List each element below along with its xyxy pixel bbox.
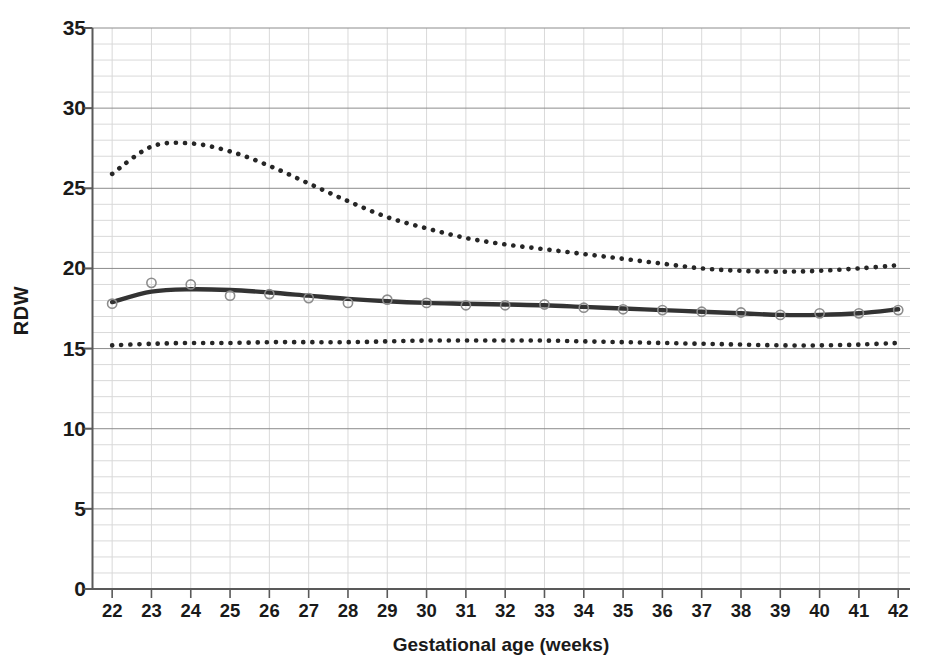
plot-area bbox=[0, 0, 930, 671]
chart-container: RDW 05101520253035 222324252627282930313… bbox=[0, 0, 930, 671]
x-axis-ticks bbox=[112, 589, 898, 598]
gridlines-major bbox=[93, 28, 911, 509]
y-axis-ticks bbox=[84, 28, 93, 589]
gridlines-vertical bbox=[112, 28, 898, 589]
